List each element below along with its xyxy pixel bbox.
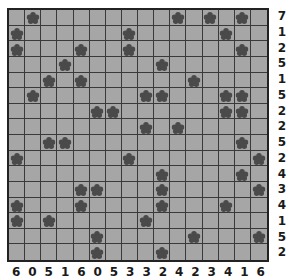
grid-cell[interactable] <box>25 213 41 229</box>
grid-cell[interactable] <box>219 10 235 26</box>
grid-cell[interactable] <box>106 88 122 104</box>
grid-cell[interactable] <box>170 213 186 229</box>
grid-cell[interactable] <box>203 10 219 26</box>
grid-cell[interactable] <box>57 244 73 260</box>
grid-cell[interactable] <box>203 244 219 260</box>
grid-cell[interactable] <box>122 151 138 167</box>
grid-cell[interactable] <box>90 198 106 214</box>
grid-cell[interactable] <box>154 88 170 104</box>
grid-cell[interactable] <box>41 151 57 167</box>
grid-cell[interactable] <box>122 41 138 57</box>
grid-cell[interactable] <box>122 10 138 26</box>
grid-cell[interactable] <box>9 151 25 167</box>
grid-cell[interactable] <box>203 41 219 57</box>
grid-cell[interactable] <box>25 88 41 104</box>
grid-cell[interactable] <box>74 104 90 120</box>
grid-cell[interactable] <box>74 166 90 182</box>
grid-cell[interactable] <box>122 198 138 214</box>
grid-cell[interactable] <box>186 104 202 120</box>
grid-cell[interactable] <box>235 229 251 245</box>
grid-cell[interactable] <box>57 41 73 57</box>
grid-cell[interactable] <box>251 57 267 73</box>
grid-cell[interactable] <box>154 244 170 260</box>
grid-cell[interactable] <box>90 151 106 167</box>
grid-cell[interactable] <box>170 119 186 135</box>
grid-cell[interactable] <box>203 198 219 214</box>
grid-cell[interactable] <box>41 213 57 229</box>
grid-cell[interactable] <box>9 73 25 89</box>
grid-cell[interactable] <box>235 213 251 229</box>
grid-cell[interactable] <box>170 182 186 198</box>
grid-cell[interactable] <box>138 119 154 135</box>
grid-cell[interactable] <box>57 88 73 104</box>
grid-cell[interactable] <box>9 10 25 26</box>
grid-cell[interactable] <box>186 73 202 89</box>
grid-cell[interactable] <box>25 104 41 120</box>
grid-cell[interactable] <box>154 104 170 120</box>
grid-cell[interactable] <box>251 73 267 89</box>
grid-cell[interactable] <box>106 151 122 167</box>
grid-cell[interactable] <box>106 166 122 182</box>
grid-cell[interactable] <box>251 26 267 42</box>
grid-cell[interactable] <box>57 135 73 151</box>
grid-cell[interactable] <box>203 135 219 151</box>
grid-cell[interactable] <box>235 41 251 57</box>
grid-cell[interactable] <box>74 41 90 57</box>
grid-cell[interactable] <box>74 26 90 42</box>
grid-cell[interactable] <box>25 151 41 167</box>
grid-cell[interactable] <box>25 166 41 182</box>
grid-cell[interactable] <box>138 135 154 151</box>
grid-cell[interactable] <box>154 57 170 73</box>
grid-cell[interactable] <box>41 119 57 135</box>
grid-cell[interactable] <box>122 119 138 135</box>
grid-cell[interactable] <box>251 166 267 182</box>
grid-cell[interactable] <box>122 135 138 151</box>
grid-cell[interactable] <box>138 10 154 26</box>
grid-cell[interactable] <box>90 119 106 135</box>
grid-cell[interactable] <box>186 166 202 182</box>
grid-cell[interactable] <box>106 244 122 260</box>
grid-cell[interactable] <box>138 41 154 57</box>
grid-cell[interactable] <box>106 41 122 57</box>
grid-cell[interactable] <box>90 73 106 89</box>
grid-cell[interactable] <box>170 88 186 104</box>
grid-cell[interactable] <box>203 182 219 198</box>
grid-cell[interactable] <box>9 104 25 120</box>
grid-cell[interactable] <box>186 213 202 229</box>
grid-cell[interactable] <box>219 41 235 57</box>
grid-cell[interactable] <box>57 166 73 182</box>
grid-cell[interactable] <box>57 73 73 89</box>
grid-cell[interactable] <box>57 213 73 229</box>
grid-cell[interactable] <box>251 119 267 135</box>
grid-cell[interactable] <box>90 88 106 104</box>
grid-cell[interactable] <box>203 57 219 73</box>
grid-cell[interactable] <box>57 104 73 120</box>
grid-cell[interactable] <box>9 57 25 73</box>
grid-cell[interactable] <box>57 198 73 214</box>
grid-cell[interactable] <box>74 198 90 214</box>
grid-cell[interactable] <box>251 229 267 245</box>
grid-cell[interactable] <box>57 229 73 245</box>
grid-cell[interactable] <box>170 10 186 26</box>
grid-cell[interactable] <box>74 182 90 198</box>
grid-cell[interactable] <box>219 104 235 120</box>
grid-cell[interactable] <box>251 182 267 198</box>
grid-cell[interactable] <box>90 244 106 260</box>
grid-cell[interactable] <box>154 10 170 26</box>
grid-cell[interactable] <box>57 26 73 42</box>
grid-cell[interactable] <box>138 88 154 104</box>
grid-cell[interactable] <box>186 10 202 26</box>
grid-cell[interactable] <box>122 244 138 260</box>
grid-cell[interactable] <box>219 198 235 214</box>
grid-cell[interactable] <box>57 57 73 73</box>
grid-cell[interactable] <box>74 10 90 26</box>
grid-cell[interactable] <box>219 73 235 89</box>
grid-cell[interactable] <box>9 198 25 214</box>
grid-cell[interactable] <box>235 26 251 42</box>
grid-cell[interactable] <box>154 198 170 214</box>
grid-cell[interactable] <box>57 151 73 167</box>
grid-cell[interactable] <box>138 166 154 182</box>
grid-cell[interactable] <box>41 41 57 57</box>
grid-cell[interactable] <box>122 26 138 42</box>
grid-cell[interactable] <box>90 229 106 245</box>
